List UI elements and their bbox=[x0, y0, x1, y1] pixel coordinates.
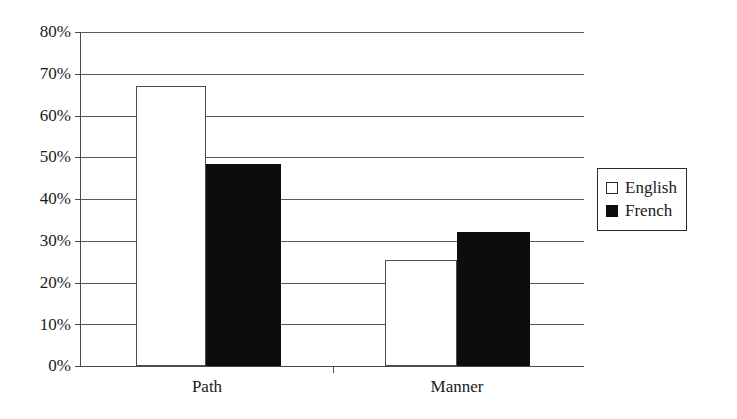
y-axis-label-0: 0% bbox=[5, 357, 71, 374]
open-square-swatch-icon bbox=[606, 182, 618, 194]
x-axis-label-manner: Manner bbox=[407, 378, 507, 396]
legend-label-english: English bbox=[625, 179, 677, 197]
y-axis-label-30: 30% bbox=[5, 232, 71, 249]
filled-square-swatch-icon bbox=[606, 205, 618, 217]
legend-label-french: French bbox=[625, 202, 672, 220]
y-axis-label-60: 60% bbox=[5, 107, 71, 124]
plot-area bbox=[81, 32, 584, 366]
y-axis-label-10: 10% bbox=[5, 316, 71, 333]
y-axis-label-50: 50% bbox=[5, 148, 71, 165]
y-axis-label-80: 80% bbox=[5, 23, 71, 40]
legend-item-english: English bbox=[606, 176, 677, 199]
y-axis-label-70: 70% bbox=[5, 65, 71, 82]
bar-manner-english bbox=[385, 260, 457, 366]
bar-chart: 80% 70% 60% 50% 40% 30% 20% 10% 0% bbox=[0, 0, 737, 419]
bar-manner-french bbox=[457, 232, 530, 366]
y-axis-label-20: 20% bbox=[5, 274, 71, 291]
x-axis-label-path: Path bbox=[157, 378, 257, 396]
y-axis-label-40: 40% bbox=[5, 190, 71, 207]
y-tick-0 bbox=[75, 366, 81, 367]
legend: English French bbox=[597, 168, 687, 231]
bar-path-french bbox=[206, 164, 281, 366]
x-tick-category-divider bbox=[333, 366, 334, 373]
bar-path-english bbox=[136, 86, 206, 366]
legend-item-french: French bbox=[606, 199, 677, 222]
